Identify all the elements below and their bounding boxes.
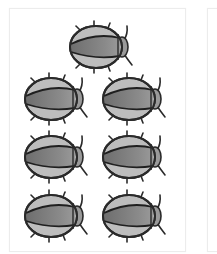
beetle-icon: [23, 189, 91, 243]
second-card-partial[interactable]: [207, 8, 217, 252]
beetle-icon: [68, 20, 136, 74]
beetle-icon: [101, 130, 169, 184]
beetle-icon: [101, 189, 169, 243]
beetle-icon: [23, 130, 91, 184]
beetle-icon: [101, 72, 169, 126]
beetle-icon: [23, 72, 91, 126]
